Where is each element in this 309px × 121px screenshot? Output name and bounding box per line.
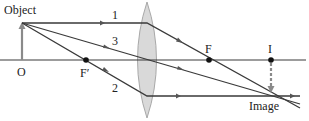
origin-label: O: [17, 65, 26, 79]
ray-2-arrow-icon-3: [290, 94, 295, 99]
ray-1-arrow-icon-2: [176, 38, 183, 44]
focal-point-far: [206, 57, 212, 63]
image-point-label: I: [268, 42, 272, 56]
ray-1-label: 1: [112, 8, 118, 22]
ray-3-arrow-icon: [103, 45, 110, 49]
diagram-canvas: Object O F′ F I Image 1 3 2: [0, 0, 309, 121]
object-label: Object: [4, 3, 37, 17]
ray-3-label: 3: [112, 34, 118, 48]
image-point: [268, 57, 274, 63]
image-label: Image: [249, 99, 279, 113]
ray-2-label: 2: [112, 81, 118, 95]
focal-near-label: F′: [80, 66, 90, 80]
ray-3-arrow-icon-2: [177, 66, 184, 70]
focal-point-near: [83, 57, 89, 63]
ray-2-arrow-icon-2: [176, 94, 181, 99]
image-arrowhead-icon: [268, 86, 275, 93]
focal-far-label: F: [205, 42, 212, 56]
lens-ray-diagram: Object O F′ F I Image 1 3 2: [0, 0, 309, 121]
ray-3: [22, 23, 300, 104]
ray-2-arrow-icon: [102, 67, 109, 72]
ray-1-arrow-icon: [100, 21, 105, 26]
